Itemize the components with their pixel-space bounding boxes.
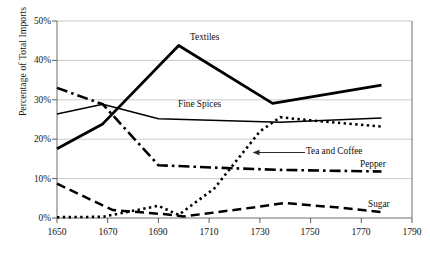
series-line-sugar	[57, 184, 382, 217]
y-tick-marks	[52, 21, 57, 218]
series-label-fine-spices: Fine Spices	[178, 99, 221, 109]
series-label-textiles: Textiles	[190, 32, 219, 42]
series-label-sugar: Sugar	[368, 199, 390, 209]
series-label-tea-and-coffee: Tea and Coffee	[306, 146, 362, 156]
x-tick-marks	[57, 218, 412, 223]
arrow-left-icon	[253, 150, 260, 155]
series-line-tea-and-coffee	[57, 117, 382, 217]
series-label-pepper: Pepper	[360, 159, 386, 169]
series-line-textiles	[57, 46, 382, 149]
import-share-line-chart: Percentage of Total Imports 50% 40% 30% …	[0, 0, 430, 255]
tea-and-coffee-leader	[253, 150, 306, 155]
